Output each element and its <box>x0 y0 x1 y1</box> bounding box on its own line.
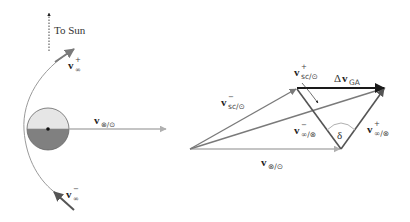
sc-velocity-after-vector <box>190 88 385 149</box>
planet-center-dot <box>46 127 50 131</box>
svg-text:∞/⊗: ∞/⊗ <box>374 129 389 138</box>
incoming-vinf-label: v ∞ − <box>66 185 79 203</box>
planet-velocity-label-right: v ⊗/⊙ <box>261 156 283 171</box>
svg-text:+: + <box>374 120 380 128</box>
svg-text:v: v <box>94 114 100 126</box>
svg-text:v: v <box>367 123 373 135</box>
svg-text:v: v <box>342 72 348 84</box>
svg-text:+: + <box>301 63 307 71</box>
svg-text:GA: GA <box>349 78 361 87</box>
planet <box>27 108 69 150</box>
vinf-after-vector <box>341 89 384 149</box>
sun-direction-label: To Sun <box>54 24 86 36</box>
vinf-before-label: v ∞/⊗ − <box>294 121 316 139</box>
outgoing-vinf-label: v ∞ + <box>68 56 81 74</box>
gravity-assist-diagram: To Sun v ∞ + v ∞ − v ⊗/⊙ <box>0 0 410 222</box>
sc-velocity-before-label: v sc/⊙ − <box>221 93 245 111</box>
svg-text:⊗/⊙: ⊗/⊙ <box>268 162 283 171</box>
vinf-after-label: v ∞/⊗ + <box>367 120 389 138</box>
svg-text:v: v <box>221 96 227 108</box>
svg-text:∞: ∞ <box>73 195 79 203</box>
svg-text:sc/⊙: sc/⊙ <box>301 72 318 81</box>
svg-text:∞: ∞ <box>75 66 81 74</box>
svg-text:−: − <box>73 185 79 193</box>
svg-text:+: + <box>75 56 81 64</box>
svg-text:v: v <box>294 124 300 136</box>
svg-text:∞/⊗: ∞/⊗ <box>301 130 316 139</box>
sc-velocity-after-label: v sc/⊙ + <box>294 63 318 81</box>
svg-text:v: v <box>261 156 267 168</box>
planet-velocity-label-left: v ⊗/⊙ <box>94 114 115 129</box>
svg-text:−: − <box>301 121 307 129</box>
vinf-before-vector <box>297 89 341 149</box>
svg-text:v: v <box>66 188 72 200</box>
turn-angle-label: δ <box>337 129 342 141</box>
svg-text:−: − <box>228 93 234 101</box>
svg-text:⊗/⊙: ⊗/⊙ <box>101 121 115 129</box>
flyby-geometry: To Sun v ∞ + v ∞ − v ⊗/⊙ <box>24 13 166 210</box>
svg-text:sc/⊙: sc/⊙ <box>228 102 245 111</box>
velocity-vector-diagram: v sc/⊙ − v sc/⊙ + Δ v GA v ∞/⊗ − v ∞/⊗ +… <box>190 63 389 171</box>
svg-text:v: v <box>294 66 300 78</box>
svg-text:v: v <box>68 59 74 71</box>
delta-v-label: Δ v GA <box>334 72 361 87</box>
sc-velocity-before-vector <box>190 89 296 149</box>
svg-text:Δ: Δ <box>334 72 341 84</box>
